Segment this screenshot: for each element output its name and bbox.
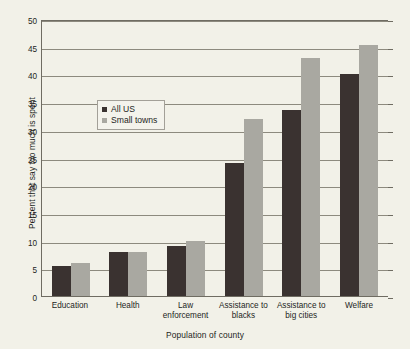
bar-chart: Percent that say too much is spent 05101…	[0, 0, 410, 349]
legend-item: Small towns	[102, 115, 157, 126]
bar	[186, 241, 205, 296]
y-axis-tick-label: 0	[32, 294, 37, 303]
bar-group	[282, 21, 320, 296]
legend-label: Small towns	[111, 115, 157, 126]
x-axis-tick-label: Health	[99, 301, 157, 320]
plot-area: 05101520253035404550	[41, 20, 388, 297]
bar	[167, 246, 186, 296]
y-axis-tick-mark	[388, 21, 393, 22]
bar	[244, 119, 263, 296]
y-axis-tick-mark	[388, 104, 393, 105]
y-axis-tick-mark	[388, 49, 393, 50]
legend-item: All US	[102, 104, 157, 115]
x-axis-tick-label: Law enforcement	[157, 301, 215, 320]
bar	[52, 266, 71, 296]
legend-label: All US	[111, 104, 135, 115]
y-axis-tick-mark	[388, 298, 393, 299]
y-axis-tick-label: 45	[28, 44, 37, 53]
legend-swatch-icon	[102, 118, 107, 123]
y-axis-tick-mark	[388, 215, 393, 216]
y-axis-tick-mark	[388, 160, 393, 161]
bar-group	[52, 21, 90, 296]
y-axis-tick-mark	[388, 270, 393, 271]
x-axis-tick-label: Assistance to big cities	[272, 301, 330, 320]
bar	[128, 252, 147, 296]
bar	[71, 263, 90, 296]
bar	[225, 163, 244, 296]
y-axis-tick-label: 40	[28, 72, 37, 81]
y-axis-tick-label: 15	[28, 210, 37, 219]
y-axis-tick-mark	[388, 187, 393, 188]
bar	[109, 252, 128, 296]
x-axis-tick-label: Welfare	[330, 301, 388, 320]
y-axis-tick-mark	[388, 243, 393, 244]
bar	[359, 45, 378, 296]
y-axis-tick-mark	[388, 76, 393, 77]
y-axis-tick-label: 25	[28, 155, 37, 164]
y-axis-tick-label: 30	[28, 127, 37, 136]
bar-group	[109, 21, 147, 296]
y-axis-tick-label: 35	[28, 100, 37, 109]
legend-swatch-icon	[102, 107, 107, 112]
y-axis-tick-label: 10	[28, 238, 37, 247]
bar-group	[167, 21, 205, 296]
x-axis-title: Population of county	[0, 330, 410, 340]
x-axis-tick-label: Assistance to blacks	[214, 301, 272, 320]
bar-group	[225, 21, 263, 296]
y-axis-tick-mark	[388, 132, 393, 133]
y-axis-tick-label: 20	[28, 183, 37, 192]
bar	[340, 74, 359, 296]
x-axis-tick-labels: EducationHealthLaw enforcementAssistance…	[41, 301, 388, 320]
bar	[282, 110, 301, 296]
bar-group	[340, 21, 378, 296]
bar-groups	[42, 21, 388, 296]
bar	[301, 58, 320, 296]
y-axis-tick-label: 5	[32, 266, 37, 275]
chart-legend: All US Small towns	[97, 100, 165, 130]
x-axis-tick-label: Education	[41, 301, 99, 320]
y-axis-tick-label: 50	[28, 17, 37, 26]
